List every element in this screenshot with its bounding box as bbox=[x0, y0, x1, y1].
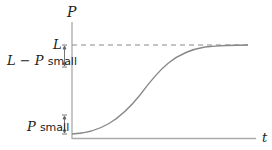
asymptote-label: L bbox=[53, 38, 62, 51]
lower-bracket-word: small bbox=[40, 121, 69, 134]
lower-bracket-label: P small bbox=[27, 120, 69, 133]
y-axis-label: P bbox=[67, 5, 76, 19]
lower-bracket-var: P bbox=[27, 119, 36, 134]
x-axis-label: t bbox=[262, 131, 267, 144]
upper-bracket-label: L − P small bbox=[7, 54, 77, 67]
upper-bracket-var: L − P bbox=[7, 53, 44, 68]
logistic-curve bbox=[72, 45, 248, 134]
upper-bracket-word: small bbox=[48, 55, 77, 68]
